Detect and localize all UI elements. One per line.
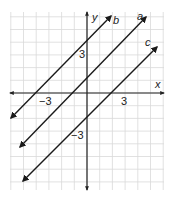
- line-label-b: b: [113, 14, 119, 26]
- line-c: [23, 47, 157, 181]
- line-a: [20, 17, 146, 147]
- x-axis-label: x: [154, 78, 161, 90]
- coordinate-plane: y x b a c −3 3 3 −3: [0, 0, 171, 200]
- y-tick-3: 3: [79, 48, 85, 60]
- line-b: [11, 16, 111, 118]
- y-tick-neg3: −3: [71, 129, 84, 141]
- line-label-c: c: [145, 36, 151, 48]
- x-tick-neg3: −3: [39, 95, 52, 107]
- line-label-a: a: [137, 10, 143, 22]
- x-tick-3: 3: [121, 95, 127, 107]
